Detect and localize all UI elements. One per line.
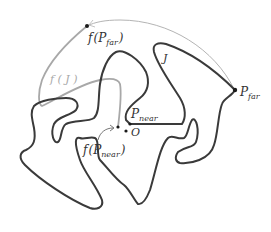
label-J: J: [161, 52, 168, 65]
point-P-far: [233, 88, 237, 92]
diagram-canvas: f(Pfar) f ( J ) J Pfar Pnear O f(Pnear): [0, 0, 271, 232]
near-arrow: [98, 128, 113, 140]
label-O: O: [131, 126, 140, 139]
point-f-P-near: [116, 125, 119, 128]
label-P-near: Pnear: [130, 107, 159, 123]
label-f-J: f ( J ): [49, 73, 78, 86]
point-O: [124, 129, 127, 132]
jordan-curve-J: [21, 43, 235, 208]
point-f-P-far: [85, 24, 89, 28]
label-P-far: Pfar: [239, 85, 261, 101]
label-f-P-far: f(Pfar): [87, 31, 124, 47]
label-f-P-near: f(Pnear): [82, 143, 126, 159]
